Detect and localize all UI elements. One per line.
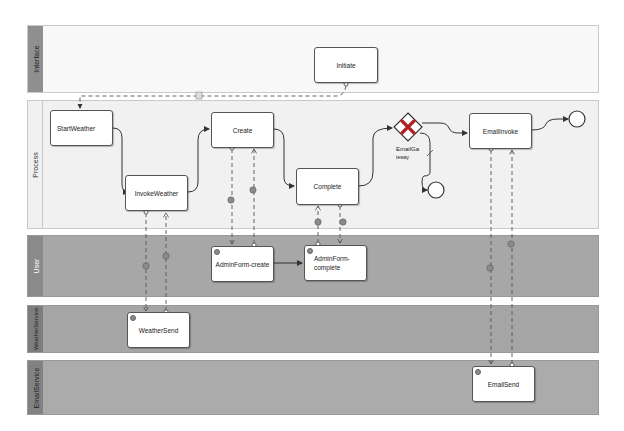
task-label: StartWeather: [57, 124, 95, 133]
task-label: InvokeWeather: [135, 189, 179, 198]
end-event-icon[interactable]: [569, 111, 585, 127]
gateway-label: EmailGa teway: [396, 145, 419, 161]
task-label: Initiate: [336, 61, 355, 70]
task-email-send[interactable]: EmailSend: [472, 366, 535, 402]
task-admin-form-create[interactable]: AdminForm-create: [211, 246, 274, 282]
user-task-icon: [307, 248, 313, 254]
user-task-icon: [214, 249, 220, 255]
task-label: AdminForm- complete: [314, 254, 350, 272]
task-label: AdminForm-create: [216, 260, 270, 269]
task-create[interactable]: Create: [211, 112, 274, 148]
task-initiate[interactable]: Initiate: [314, 47, 378, 83]
service-task-icon: [130, 315, 136, 321]
task-weather-send[interactable]: WeatherSend: [127, 312, 190, 348]
task-start-weather[interactable]: StartWeather: [50, 110, 113, 146]
task-complete[interactable]: Complete: [296, 168, 359, 205]
task-label: EmailSend: [488, 380, 519, 389]
task-label: Create: [233, 126, 253, 135]
gateway-label-line2: teway: [396, 153, 419, 161]
message-flow-initiate-start[interactable]: [80, 82, 348, 108]
task-invoke-weather[interactable]: InvokeWeather: [125, 175, 188, 211]
task-admin-form-complete[interactable]: AdminForm- complete: [304, 245, 367, 281]
task-label: EmailInvoke: [483, 127, 518, 136]
service-task-icon: [475, 369, 481, 375]
task-label: WeatherSend: [139, 326, 179, 335]
task-email-invoke[interactable]: EmailInvoke: [469, 113, 532, 149]
gateway-label-line1: EmailGa: [396, 145, 419, 153]
task-label: Complete: [314, 182, 342, 191]
end-event-icon[interactable]: [428, 182, 444, 198]
exclusive-gateway-icon[interactable]: [394, 113, 422, 141]
